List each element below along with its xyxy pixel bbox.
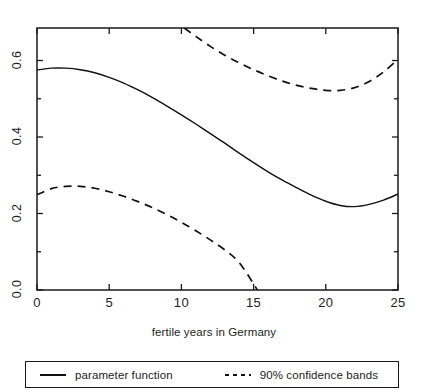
x-axis-title: fertile years in Germany [0, 326, 428, 338]
legend-entries: parameter function 90% confidence bands [26, 362, 398, 387]
x-tick-label: 5 [94, 295, 124, 310]
plot-frame [37, 28, 398, 290]
legend-item-confidence-bands: 90% confidence bands [225, 369, 378, 381]
dashed-line-swatch-icon [225, 370, 251, 380]
axes-frame [37, 28, 398, 290]
axis-ticks [37, 28, 398, 290]
figure-panel: 0.00.20.40.6 0510152025 fertile years in… [0, 0, 428, 390]
y-tick-label: 0.6 [10, 45, 24, 75]
x-tick-label: 10 [166, 295, 196, 310]
legend-item-parameter-function: parameter function [40, 369, 173, 381]
data-series [37, 28, 398, 290]
y-tick-label: 0.2 [10, 198, 24, 228]
series-line-1 [184, 28, 398, 91]
series-line-2 [37, 186, 257, 290]
x-tick-label: 15 [239, 295, 269, 310]
legend-box: parameter function 90% confidence bands [25, 361, 399, 388]
legend-label-confidence-bands: 90% confidence bands [260, 369, 378, 381]
x-tick-label: 0 [22, 295, 52, 310]
x-tick-label: 25 [383, 295, 413, 310]
solid-line-swatch-icon [40, 370, 66, 380]
legend-label-parameter-function: parameter function [75, 369, 173, 381]
x-tick-label: 20 [311, 295, 341, 310]
y-tick-label: 0.4 [10, 121, 24, 151]
series-line-0 [37, 68, 398, 207]
